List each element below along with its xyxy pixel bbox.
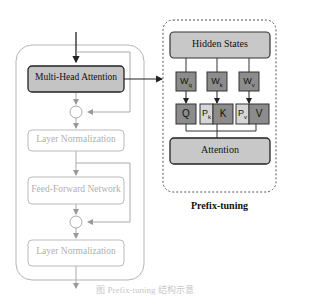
v-label: V bbox=[249, 108, 269, 119]
hidden-states-label: Hidden States bbox=[170, 38, 270, 49]
attention-label: Attention bbox=[170, 144, 270, 155]
pv-label: Pv bbox=[236, 108, 249, 120]
add-node-1 bbox=[70, 106, 82, 118]
multi-head-attention-label: Multi-Head Attention bbox=[28, 72, 124, 82]
wq-label: Wq bbox=[176, 76, 196, 88]
k-label: K bbox=[213, 108, 233, 119]
add-node-2 bbox=[70, 216, 82, 228]
feed-forward-label: Feed-Forward Network bbox=[28, 184, 124, 194]
pk-label: Pk bbox=[200, 108, 213, 120]
wk-label: Wk bbox=[207, 76, 227, 88]
prefix-tuning-title: Prefix-tuning bbox=[163, 200, 276, 211]
figure-caption: 图 Prefix-tuning 结构示意 bbox=[40, 283, 250, 296]
wv-label: Wv bbox=[239, 76, 259, 88]
layer-norm-1-label: Layer Normalization bbox=[28, 134, 124, 144]
q-label: Q bbox=[176, 108, 196, 119]
layer-norm-2-label: Layer Normalization bbox=[28, 246, 124, 256]
